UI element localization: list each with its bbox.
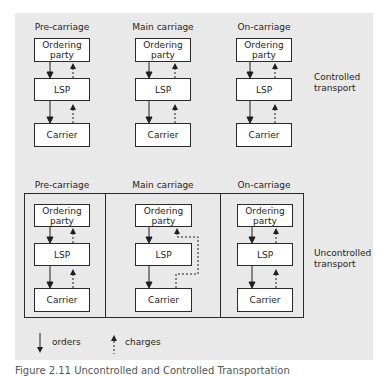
legend-orders-arrow-icon [37, 333, 43, 353]
legend-charges-arrow-icon [111, 335, 117, 354]
charges-arrow-icon [73, 69, 275, 123]
legend-charges-label: charges [125, 337, 161, 348]
orders-arrow-icon [47, 62, 253, 123]
legend-orders-label: orders [52, 337, 81, 348]
charges-arrow-icon [73, 234, 276, 288]
orders-arrow-icon [47, 227, 255, 288]
figure-caption: Figure 2.11 Uncontrolled and Controlled … [15, 365, 290, 377]
